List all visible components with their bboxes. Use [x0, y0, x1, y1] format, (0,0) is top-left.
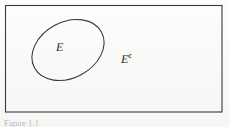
- event-label-E: E: [56, 41, 63, 53]
- figure-canvas: E Ec Figure 1.1: [0, 0, 229, 127]
- set-diagram: [0, 0, 229, 127]
- sample-space-rectangle: [6, 6, 223, 113]
- complement-label-Ec: Ec: [121, 52, 132, 65]
- event-ellipse: [21, 7, 114, 92]
- figure-caption-text: Figure 1.1: [4, 119, 39, 127]
- complement-label-superscript: c: [128, 51, 132, 60]
- figure-caption: Figure 1.1: [4, 119, 39, 127]
